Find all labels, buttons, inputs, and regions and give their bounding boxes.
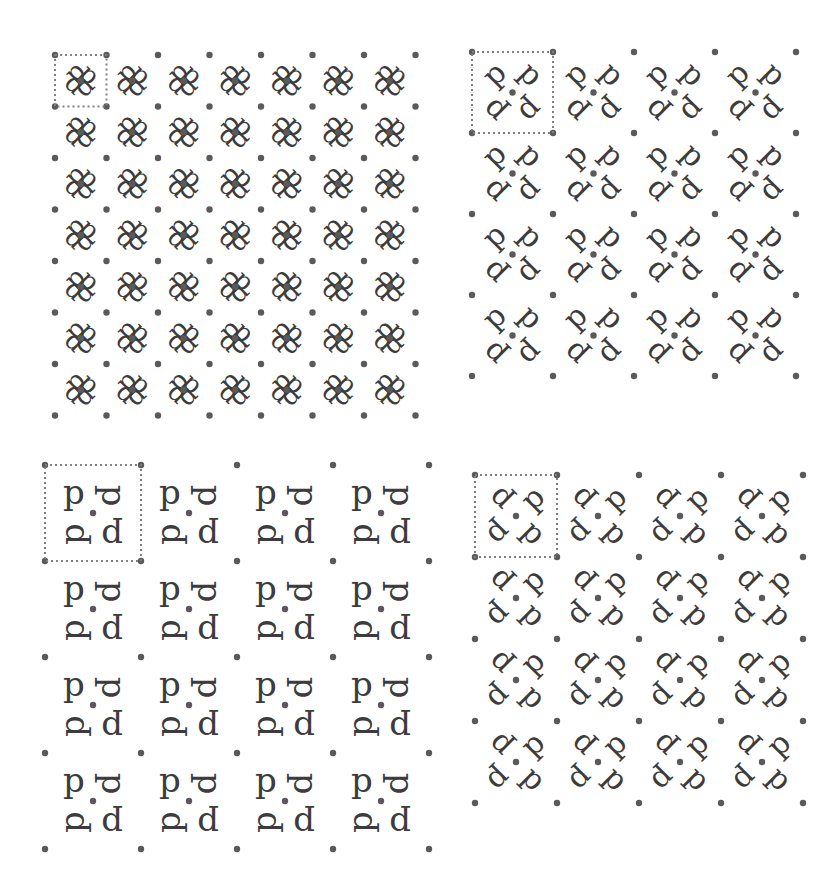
glyph-p: p (755, 173, 793, 211)
lattice-dot (309, 258, 315, 264)
glyph-p: p (382, 485, 422, 507)
glyph-p: p (148, 715, 188, 737)
center-dot (78, 387, 84, 393)
lattice-dot (206, 258, 212, 264)
center-dot (677, 595, 683, 601)
panel-top-right: pppppppppppppppppppppppppppppppppppppppp… (472, 52, 796, 376)
lattice-dot (412, 258, 418, 264)
center-dot (78, 335, 84, 341)
lattice-dot (793, 373, 799, 379)
glyph-p: p (755, 55, 793, 93)
lattice-dot (330, 462, 336, 468)
glyph-p: p (644, 761, 682, 799)
glyph-p: p (718, 217, 756, 255)
center-dot (671, 332, 677, 338)
center-dot (677, 513, 683, 519)
center-dot (378, 702, 384, 708)
center-dot (282, 702, 288, 708)
lattice-dot (309, 206, 315, 212)
glyph-p: p (677, 725, 715, 763)
lattice-dot (103, 155, 109, 161)
center-dot (284, 129, 290, 135)
glyph-p: p (755, 136, 793, 174)
lattice-dot (309, 412, 315, 418)
panel-top-left: pppppppppppppppppppppppppppppppppppppppp… (55, 55, 416, 416)
glyph-p: p (475, 217, 513, 255)
center-dot (335, 232, 341, 238)
center-dot (378, 510, 384, 516)
center-dot (78, 232, 84, 238)
glyph-p: p (159, 472, 181, 512)
glyph-p: p (63, 664, 85, 704)
glyph-p: p (480, 644, 518, 682)
glyph-p: p (475, 298, 513, 336)
center-dot (378, 606, 384, 612)
lattice-dot (412, 361, 418, 367)
glyph-p: p (759, 561, 797, 599)
lattice-dot (155, 103, 161, 109)
lattice-dot (426, 750, 432, 756)
lattice-dot (234, 462, 240, 468)
glyph-p: p (480, 761, 518, 799)
glyph-p: p (726, 679, 764, 717)
glyph-p: p (556, 254, 594, 292)
glyph-p: p (755, 335, 793, 373)
glyph-p: p (512, 217, 550, 255)
glyph-p: p (512, 335, 550, 373)
glyph-p: p (761, 677, 799, 715)
center-dot (513, 677, 519, 683)
lattice-dot (631, 211, 637, 217)
glyph-p: p (512, 55, 550, 93)
lattice-dot (712, 130, 718, 136)
glyph-p: p (726, 726, 764, 764)
center-dot (181, 232, 187, 238)
glyph-p: p (644, 644, 682, 682)
center-dot (181, 78, 187, 84)
lattice-dot (631, 130, 637, 136)
glyph-p: p (101, 613, 123, 653)
center-dot (387, 284, 393, 290)
glyph-p: p (515, 595, 553, 633)
glyph-p: p (593, 92, 631, 130)
glyph-p: p (637, 92, 675, 130)
center-dot (78, 78, 84, 84)
glyph-p: p (148, 619, 188, 641)
glyph-p: p (759, 725, 797, 763)
glyph-p: p (475, 92, 513, 130)
center-dot (595, 677, 601, 683)
glyph-p: p (593, 173, 631, 211)
glyph-p: p (562, 761, 600, 799)
lattice-dot (155, 361, 161, 367)
lattice-dot (155, 412, 161, 418)
center-dot (387, 129, 393, 135)
center-dot (595, 513, 601, 519)
center-dot (129, 181, 135, 187)
lattice-dot (550, 373, 556, 379)
center-dot (284, 387, 290, 393)
glyph-p: p (480, 562, 518, 600)
glyph-p: p (293, 709, 315, 749)
glyph-p: p (286, 581, 326, 603)
center-dot (181, 387, 187, 393)
center-dot (129, 129, 135, 135)
glyph-p: p (679, 513, 717, 551)
center-dot (284, 284, 290, 290)
center-dot (129, 284, 135, 290)
lattice-dot (309, 361, 315, 367)
panel-bottom-left: pppppppppppppppppppppppppppppppppppppppp… (45, 465, 429, 849)
lattice-dot (469, 211, 475, 217)
lattice-dot (361, 258, 367, 264)
glyph-p: p (255, 568, 277, 608)
glyph-p: p (595, 479, 633, 517)
center-dot (186, 798, 192, 804)
lattice-dot (258, 155, 264, 161)
lattice-dot (361, 412, 367, 418)
glyph-p: p (679, 759, 717, 797)
lattice-dot (206, 361, 212, 367)
glyph-p: p (148, 523, 188, 545)
center-dot (677, 759, 683, 765)
lattice-dot (52, 412, 58, 418)
lattice-dot (361, 206, 367, 212)
glyph-p: p (759, 479, 797, 517)
glyph-p: p (351, 664, 373, 704)
